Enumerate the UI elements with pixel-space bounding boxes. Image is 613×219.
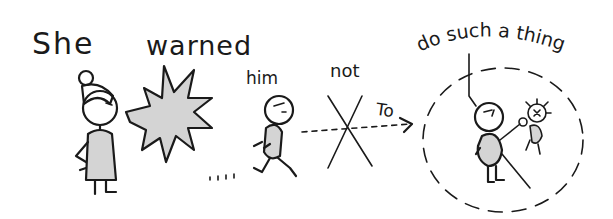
dashed-circle (423, 68, 583, 212)
x-mark-icon (328, 96, 372, 168)
arrow (302, 118, 412, 132)
woman-figure (76, 71, 117, 194)
boy-with-doll-figure (469, 54, 551, 188)
illustration: She warned him not To NO! do such a thin… (0, 0, 613, 219)
boy-figure (210, 96, 296, 180)
no-burst (126, 66, 212, 162)
word-do-such-a-thing: do such a thing (413, 18, 569, 55)
drawing: do such a thing (0, 0, 613, 219)
